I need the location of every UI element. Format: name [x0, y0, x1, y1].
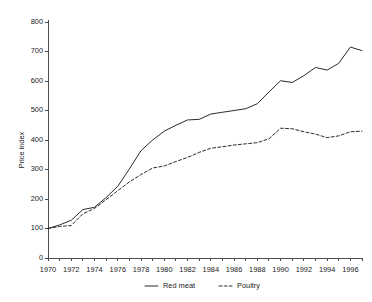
y-axis-tick-label: 700 [31, 46, 43, 55]
x-axis-tick-label: 1970 [40, 265, 56, 274]
y-axis-tick-label: 0 [39, 253, 43, 262]
x-axis-tick-label: 1990 [272, 265, 288, 274]
y-axis-tick-label: 500 [31, 105, 43, 114]
x-axis-tick-label: 1988 [249, 265, 265, 274]
y-axis-tick-label: 200 [31, 194, 43, 203]
x-axis-tick-label: 1978 [133, 265, 149, 274]
x-axis-tick-label: 1980 [156, 265, 172, 274]
x-axis-tick-label: 1986 [226, 265, 242, 274]
x-axis-tick-label: 1996 [342, 265, 358, 274]
legend-label-poultry: Poultry [237, 281, 260, 290]
y-axis-tick-label: 400 [31, 135, 43, 144]
y-axis-title: Price index [17, 131, 26, 168]
x-axis-tick-label: 1984 [203, 265, 219, 274]
y-axis-tick-label: 100 [31, 223, 43, 232]
x-axis-tick-label: 1972 [63, 265, 79, 274]
y-axis-tick-label: 600 [31, 76, 43, 85]
chart-canvas: 0100200300400500600700800 19701972197419… [0, 0, 372, 302]
y-axis-tick-label: 800 [31, 17, 43, 26]
line-chart: 0100200300400500600700800 19701972197419… [0, 0, 372, 302]
x-axis-tick-label: 1974 [86, 265, 102, 274]
x-axis-tick-label: 1994 [319, 265, 335, 274]
x-axis-tick-label: 1982 [179, 265, 195, 274]
legend-label-red-meat: Red meat [163, 281, 195, 290]
x-axis-tick-label: 1976 [110, 265, 126, 274]
x-axis-tick-label: 1992 [296, 265, 312, 274]
chart-background [0, 0, 372, 302]
y-axis-tick-label: 300 [31, 164, 43, 173]
